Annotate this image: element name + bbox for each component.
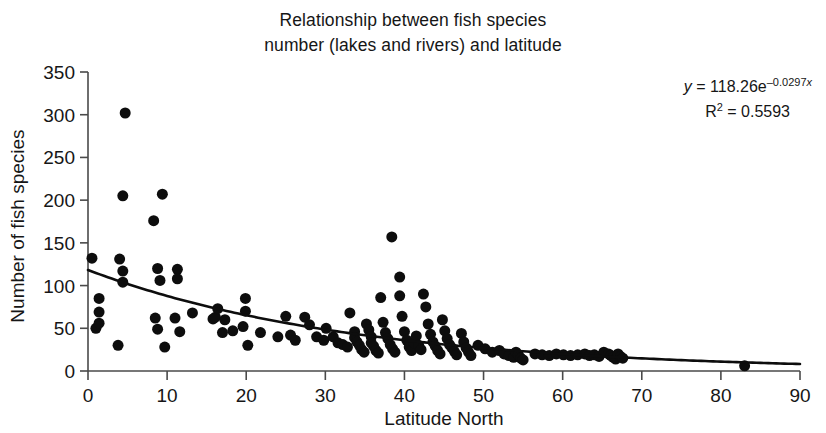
data-point — [150, 313, 161, 324]
data-points-group — [86, 108, 750, 372]
data-point — [152, 263, 163, 274]
data-point — [272, 331, 283, 342]
data-point — [418, 289, 429, 300]
data-point — [94, 318, 105, 329]
figure-container: Relationship between fish species number… — [0, 0, 826, 433]
x-tick-label: 20 — [236, 385, 257, 406]
data-point — [451, 349, 462, 360]
data-point — [152, 324, 163, 335]
data-point — [172, 264, 183, 275]
y-tick-label: 0 — [64, 361, 75, 382]
data-point — [375, 292, 386, 303]
data-point — [435, 348, 446, 359]
y-tick-label: 100 — [43, 276, 75, 297]
data-point — [242, 340, 253, 351]
x-axis-label: Latitude North — [384, 408, 503, 429]
x-tick-label: 90 — [789, 385, 810, 406]
x-axis-ticks: 0102030405060708090 — [83, 371, 811, 406]
data-point — [280, 311, 291, 322]
data-point — [86, 253, 97, 264]
data-point — [465, 350, 476, 361]
data-point — [159, 342, 170, 353]
y-tick-label: 150 — [43, 233, 75, 254]
data-point — [318, 335, 329, 346]
x-tick-label: 10 — [157, 385, 178, 406]
data-point — [420, 301, 431, 312]
data-point — [423, 319, 434, 330]
data-point — [394, 272, 405, 283]
data-point — [120, 108, 131, 119]
data-point — [113, 340, 124, 351]
data-point — [437, 314, 448, 325]
data-point — [290, 335, 301, 346]
y-tick-label: 200 — [43, 190, 75, 211]
data-point — [114, 254, 125, 265]
data-point — [378, 317, 389, 328]
y-tick-label: 350 — [43, 62, 75, 83]
data-point — [344, 307, 355, 318]
y-tick-label: 50 — [54, 318, 75, 339]
data-point — [94, 307, 105, 318]
x-tick-label: 70 — [631, 385, 652, 406]
scatter-plot: 050100150200250300350 010203040506070809… — [0, 0, 826, 433]
data-point — [255, 327, 266, 338]
x-tick-label: 30 — [315, 385, 336, 406]
data-point — [170, 313, 181, 324]
y-tick-label: 250 — [43, 147, 75, 168]
data-point — [117, 266, 128, 277]
data-point — [238, 321, 249, 332]
y-axis-label: Number of fish species — [7, 129, 28, 322]
fit-equation-annotation: y = 118.26e–0.0297x — [683, 76, 813, 95]
data-point — [359, 347, 370, 358]
data-point — [219, 314, 230, 325]
data-point — [227, 325, 238, 336]
data-point — [386, 231, 397, 242]
data-point — [416, 344, 427, 355]
data-point — [172, 273, 183, 284]
data-point — [117, 190, 128, 201]
data-point — [94, 293, 105, 304]
x-tick-label: 0 — [83, 385, 94, 406]
data-point — [157, 189, 168, 200]
x-tick-label: 40 — [394, 385, 415, 406]
data-point — [389, 347, 400, 358]
data-point — [394, 290, 405, 301]
x-tick-label: 60 — [552, 385, 573, 406]
data-point — [518, 354, 529, 365]
data-point — [240, 293, 251, 304]
data-point — [217, 327, 228, 338]
x-tick-label: 80 — [710, 385, 731, 406]
data-point — [174, 326, 185, 337]
data-point — [342, 342, 353, 353]
data-point — [187, 307, 198, 318]
y-axis-ticks: 050100150200250300350 — [43, 62, 88, 382]
data-point — [373, 348, 384, 359]
data-point — [148, 215, 159, 226]
r-squared-annotation: R2 = 0.5593 — [705, 101, 790, 120]
x-tick-label: 50 — [473, 385, 494, 406]
data-point — [154, 275, 165, 286]
data-point — [397, 311, 408, 322]
y-tick-label: 300 — [43, 105, 75, 126]
